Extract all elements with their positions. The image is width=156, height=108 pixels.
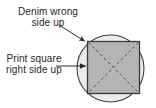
denim-label-line2: side up xyxy=(0,18,96,29)
diagram-canvas: Denim wrong side up Print square right s… xyxy=(0,0,156,108)
print-label-line1: Print square xyxy=(0,54,68,65)
print-label-line2: right side up xyxy=(0,65,68,76)
denim-label: Denim wrong side up xyxy=(0,7,96,28)
denim-label-line1: Denim wrong xyxy=(0,7,96,18)
print-label: Print square right side up xyxy=(0,54,68,75)
